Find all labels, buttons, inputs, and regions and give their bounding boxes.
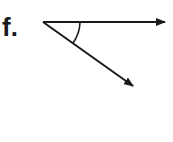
diagonal-ray-arrow xyxy=(43,22,133,86)
angle-diagram xyxy=(0,0,173,142)
angle-arc xyxy=(73,22,80,43)
